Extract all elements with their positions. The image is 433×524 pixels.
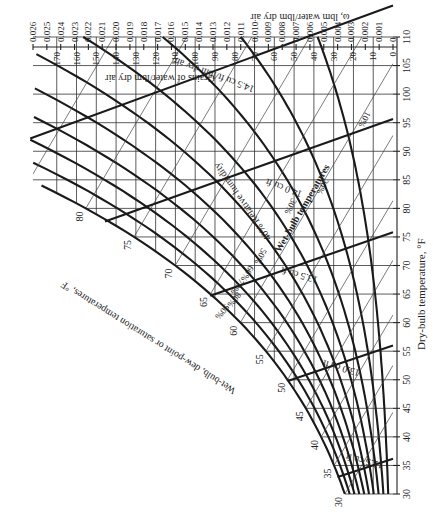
svg-text:45: 45 [294, 411, 305, 421]
svg-text:0: 0 [388, 52, 398, 57]
svg-text:60: 60 [269, 52, 279, 62]
svg-text:60: 60 [228, 326, 239, 336]
svg-text:0.013: 0.013 [208, 21, 218, 42]
svg-text:0.025: 0.025 [42, 21, 52, 42]
chart-labels: 303540455055606570758085909510010511000.… [28, 12, 427, 507]
svg-text:80: 80 [401, 203, 412, 213]
svg-text:0.018: 0.018 [139, 21, 149, 42]
svg-text:65: 65 [198, 297, 209, 307]
svg-text:0.008: 0.008 [277, 21, 287, 42]
svg-text:160: 160 [72, 52, 82, 66]
svg-text:75: 75 [401, 232, 412, 242]
svg-text:0.003: 0.003 [346, 21, 356, 42]
svg-text:95: 95 [401, 118, 412, 128]
svg-text:90%: 90% [213, 302, 232, 321]
svg-text:140: 140 [111, 52, 121, 66]
svg-text:13.5 cu ft: 13.5 cu ft [279, 265, 319, 286]
svg-text:0.024: 0.024 [56, 21, 66, 42]
svg-text:70: 70 [401, 261, 412, 271]
svg-text:0.015: 0.015 [180, 21, 190, 42]
svg-text:30: 30 [329, 52, 339, 62]
svg-text:0.011: 0.011 [236, 22, 246, 42]
svg-text:0.009: 0.009 [263, 21, 273, 42]
svg-text:0.014: 0.014 [194, 21, 204, 42]
svg-text:70: 70 [163, 269, 174, 279]
svg-text:45: 45 [401, 403, 412, 413]
svg-text:55: 55 [254, 354, 265, 364]
svg-text:0.012: 0.012 [222, 22, 232, 42]
svg-text:170: 170 [52, 52, 62, 66]
svg-text:0.019: 0.019 [125, 21, 135, 42]
svg-text:0.022: 0.022 [83, 22, 93, 42]
svg-text:100: 100 [401, 87, 412, 102]
svg-text:90: 90 [210, 52, 220, 62]
svg-text:0.004: 0.004 [333, 21, 343, 42]
psychrometric-chart: 303540455055606570758085909510010511000.… [0, 0, 433, 524]
svg-text:55: 55 [401, 346, 412, 356]
svg-text:35: 35 [401, 460, 412, 470]
svg-text:40: 40 [309, 52, 319, 62]
svg-text:0.021: 0.021 [97, 22, 107, 42]
svg-text:0.016: 0.016 [166, 21, 176, 42]
svg-text:0.007: 0.007 [291, 21, 301, 42]
svg-text:Dry-bulb temperature, °F: Dry-bulb temperature, °F [415, 238, 427, 350]
svg-text:60: 60 [401, 318, 412, 328]
svg-text:10: 10 [368, 52, 378, 62]
svg-text:30: 30 [401, 489, 412, 499]
svg-text:65: 65 [401, 289, 412, 299]
svg-text:20: 20 [348, 52, 358, 62]
svg-text:40: 40 [401, 432, 412, 442]
svg-text:80: 80 [230, 52, 240, 62]
svg-text:0.020: 0.020 [111, 21, 121, 42]
svg-text:0: 0 [388, 37, 398, 42]
svg-text:80: 80 [74, 211, 85, 221]
svg-text:110: 110 [401, 30, 412, 45]
svg-text:0.005: 0.005 [319, 21, 329, 42]
svg-text:0.001: 0.001 [374, 22, 384, 42]
svg-text:50: 50 [276, 383, 287, 393]
svg-text:35: 35 [322, 468, 333, 478]
svg-text:ω, lbm water/lbm dry air: ω, lbm water/lbm dry air [250, 12, 350, 23]
svg-text:30: 30 [333, 497, 344, 507]
svg-text:90: 90 [401, 146, 412, 156]
svg-text:70: 70 [250, 52, 260, 62]
svg-text:75: 75 [122, 240, 133, 250]
svg-text:13.0 cu ft: 13.0 cu ft [321, 358, 361, 379]
chart-canvas: 303540455055606570758085909510010511000.… [0, 0, 433, 524]
svg-text:50: 50 [401, 375, 412, 385]
svg-text:0.002: 0.002 [360, 22, 370, 42]
svg-text:50: 50 [289, 52, 299, 62]
svg-text:120: 120 [151, 52, 161, 66]
svg-text:40: 40 [309, 440, 320, 450]
svg-text:0.023: 0.023 [70, 21, 80, 42]
svg-text:0.026: 0.026 [28, 21, 38, 42]
svg-text:105: 105 [401, 58, 412, 73]
svg-text:0.017: 0.017 [153, 21, 163, 42]
svg-text:0.006: 0.006 [305, 21, 315, 42]
svg-text:0.010: 0.010 [250, 21, 260, 42]
svg-text:150: 150 [91, 52, 101, 66]
svg-text:130: 130 [131, 52, 141, 66]
svg-text:85: 85 [401, 175, 412, 185]
